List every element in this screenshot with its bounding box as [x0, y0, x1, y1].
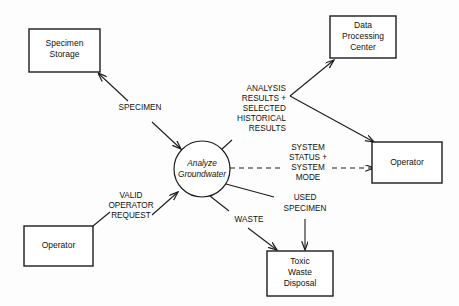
process-analyze-groundwater[interactable]: Analyze Groundwater [174, 141, 230, 197]
system-status-label-line1: SYSTEM [291, 143, 325, 152]
system-status-flow: SYSTEM STATUS + SYSTEM MODE [230, 143, 374, 182]
valid-operator-request-label-line1: VALID [119, 191, 142, 200]
waste-flow-label: WASTE [235, 215, 264, 224]
specimen-storage-label-line2: Storage [50, 49, 80, 59]
data-processing-center-label-line2: Processing [342, 31, 384, 41]
analysis-results-label-line5: RESULTS [249, 124, 287, 133]
operator-right-label: Operator [390, 157, 424, 167]
entity-operator-bottom-left[interactable]: Operator [24, 226, 93, 266]
system-status-label-line3: SYSTEM [291, 163, 325, 172]
waste-line-lower [248, 228, 277, 250]
analysis-results-label-line3: SELECTED [243, 104, 286, 113]
waste-flow: WASTE [210, 196, 277, 250]
analysis-results-line-to-operator [290, 96, 374, 142]
operator-bottom-left-label: Operator [42, 240, 76, 250]
toxic-waste-disposal-label-line3: Disposal [284, 278, 317, 288]
specimen-flow-line-upper [98, 73, 128, 101]
entity-toxic-waste-disposal[interactable]: Toxic Waste Disposal [267, 251, 333, 296]
analyze-groundwater-label-line2: Groundwater [178, 169, 227, 179]
system-status-label-line2: STATUS + [289, 153, 327, 162]
analyze-groundwater-label-line1: Analyze [186, 158, 217, 168]
toxic-waste-disposal-label-line2: Waste [288, 267, 312, 277]
diagram-canvas: SPECIMEN VALID OPERATOR REQUEST ANALYSIS… [0, 0, 459, 306]
entity-operator-right[interactable]: Operator [372, 142, 442, 183]
used-specimen-label-line2: SPECIMEN [284, 204, 327, 213]
used-specimen-label-line1: USED [294, 193, 317, 202]
analysis-results-label-line2: RESULTS + [242, 94, 286, 103]
valid-operator-request-line-lower [93, 212, 110, 226]
entity-specimen-storage[interactable]: Specimen Storage [29, 29, 100, 72]
used-specimen-line-diagonal [226, 184, 274, 197]
entity-data-processing-center[interactable]: Data Processing Center [330, 16, 396, 58]
analysis-results-label-line4: HISTORICAL [237, 114, 286, 123]
analysis-results-label-line1: ANALYSIS [247, 84, 287, 93]
specimen-flow-line-lower [152, 122, 181, 149]
analysis-results-flow: ANALYSIS RESULTS + SELECTED HISTORICAL R… [222, 60, 374, 149]
valid-operator-request-label-line2: OPERATOR [108, 201, 153, 210]
data-processing-center-label-line1: Data [354, 20, 372, 30]
data-processing-center-label-line3: Center [350, 42, 376, 52]
analysis-results-line-stub [222, 140, 232, 149]
valid-operator-request-line-upper [152, 192, 178, 215]
toxic-waste-disposal-label-line1: Toxic [290, 256, 310, 266]
waste-line-upper [210, 196, 229, 211]
specimen-flow-label: SPECIMEN [119, 103, 162, 112]
valid-operator-request-label-line3: REQUEST [111, 211, 151, 220]
specimen-storage-label-line1: Specimen [46, 38, 84, 48]
system-status-label-line4: MODE [296, 173, 321, 182]
data-flow-diagram: SPECIMEN VALID OPERATOR REQUEST ANALYSIS… [0, 0, 459, 306]
analysis-results-line-to-dpc [290, 60, 334, 96]
specimen-flow: SPECIMEN [98, 73, 181, 149]
valid-operator-request-flow: VALID OPERATOR REQUEST [93, 191, 178, 226]
